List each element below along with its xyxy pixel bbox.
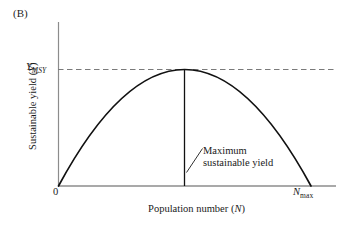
y-axis-title-variable: Y <box>27 66 38 72</box>
y-axis-title-close: ) <box>27 62 38 66</box>
x-tick-subscript: max <box>300 191 313 200</box>
x-axis-tick-label-zero: 0 <box>53 186 58 198</box>
x-axis-title: Population number (N) <box>58 203 335 215</box>
x-tick-base: N <box>293 186 300 197</box>
x-axis-title-text: Population number ( <box>148 203 234 214</box>
y-axis-title-text: Sustainable yield ( <box>27 72 38 150</box>
y-axis-title: Sustainable yield (Y) <box>27 36 39 176</box>
annotation-leader-line <box>187 149 203 173</box>
annotation-line-2: sustainable yield <box>203 157 273 169</box>
x-axis-tick-label-nmax: Nmax <box>293 186 313 198</box>
x-axis-title-close: ) <box>241 203 245 214</box>
msy-annotation-label: Maximum sustainable yield <box>203 145 273 170</box>
sustainable-yield-figure: (B) YMSY 0 Nmax Sustainable yield (Y) Po… <box>0 0 344 228</box>
panel-label: (B) <box>13 7 28 20</box>
annotation-line-1: Maximum <box>203 145 273 157</box>
